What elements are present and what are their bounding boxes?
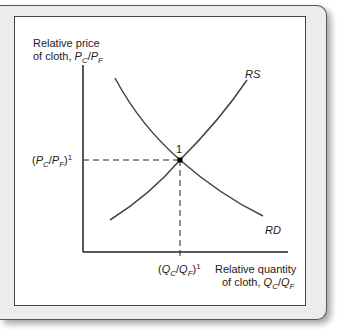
equilibrium-label: 1 [176, 143, 182, 155]
rd-label: RD [265, 224, 281, 236]
x-axis-title-line2: of cloth, QC/QF [222, 276, 296, 291]
equilibrium-point [178, 158, 183, 163]
equilibrium-price-label: (PC/PF)1 [32, 153, 73, 169]
y-axis-title-line1: Relative price [33, 37, 100, 49]
relative-supply-demand-diagram: 1 RS RD Relative price of cloth, PC/PF (… [0, 0, 339, 329]
rd-curve [115, 78, 263, 216]
y-axis-title-line2: of cloth, PC/PF [33, 50, 104, 65]
x-axis-title-line1: Relative quantity [215, 263, 297, 275]
rs-label: RS [245, 68, 261, 80]
equilibrium-quantity-label: (QC/QF)1 [158, 262, 201, 278]
